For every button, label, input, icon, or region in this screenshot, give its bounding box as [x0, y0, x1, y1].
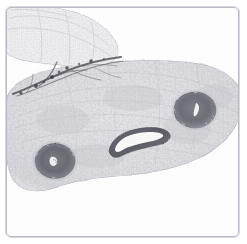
figure-root: [0, 0, 247, 244]
caption-zone: [7, 194, 238, 236]
specimen-image-canvas: [7, 8, 238, 236]
